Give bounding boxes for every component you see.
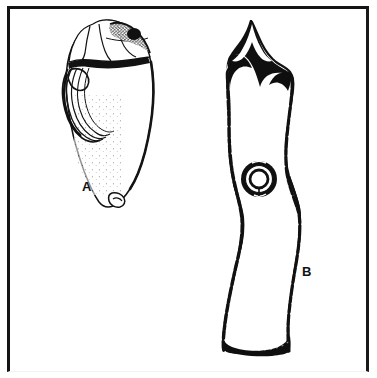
artifact-a (60, 18, 170, 216)
artifact-b-label: B (302, 265, 312, 278)
artifact-b (205, 20, 307, 356)
artifact-a-label: A (82, 180, 92, 193)
artifact-figure-plate: A B (0, 0, 377, 378)
artifact-drawing-canvas (0, 0, 377, 378)
perforation-hole (250, 170, 268, 188)
artifact-a-distal-tip (109, 193, 125, 207)
artifact-a-scar-blot (127, 28, 141, 40)
artifact-b-perforation (241, 161, 277, 197)
artifact-b-left-stipple (205, 60, 257, 352)
